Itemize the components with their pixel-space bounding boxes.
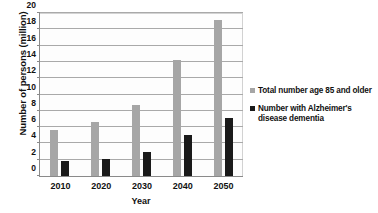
legend-swatch-icon [250,88,255,93]
y-tick-label: 18 [27,17,36,26]
bar-total-85-plus [214,20,222,176]
x-tick-label: 2020 [81,181,122,191]
bar-group: 2030 [122,13,163,176]
x-tick-label: 2040 [162,181,203,191]
x-tick-label: 2050 [203,181,244,191]
y-tick-label: 14 [27,50,36,59]
x-axis-title: Year [39,196,243,206]
plot-area: 02468101214161820 20102020203020402050 [39,13,243,177]
y-tick-label: 0 [31,164,36,173]
legend-item: Number with Alzheimer's disease dementia [250,104,376,125]
bar-alzheimers [61,161,69,176]
bar-group: 2040 [162,13,203,176]
x-tick-label: 2010 [40,181,81,191]
bar-alzheimers [143,152,151,176]
legend-label: Number with Alzheimer's disease dementia [258,104,376,125]
bar-total-85-plus [50,130,58,176]
y-tick-label: 12 [27,66,36,75]
bar-total-85-plus [91,122,99,176]
y-tick-label: 8 [31,99,36,108]
x-tick-label: 2030 [122,181,163,191]
legend-item: Total number age 85 and older [250,86,376,97]
y-tick-label: 4 [31,131,36,140]
y-tick-label: 6 [31,115,36,124]
bar-group: 2020 [81,13,122,176]
bar-group: 2010 [40,13,81,176]
chart-legend: Total number age 85 and olderNumber with… [250,86,376,132]
y-tick-label: 16 [27,33,36,42]
bar-alzheimers [102,159,110,176]
legend-swatch-icon [250,106,255,111]
y-tick-label: 20 [27,1,36,10]
y-tick-label: 10 [27,82,36,91]
y-tick-label: 2 [31,147,36,156]
bar-total-85-plus [132,105,140,176]
bar-total-85-plus [173,60,181,176]
legend-label: Total number age 85 and older [258,86,372,97]
bar-alzheimers [184,135,192,176]
bar-alzheimers [225,118,233,176]
chart-figure: Number of persons (million) 024681012141… [0,0,378,213]
bar-group: 2050 [203,13,244,176]
